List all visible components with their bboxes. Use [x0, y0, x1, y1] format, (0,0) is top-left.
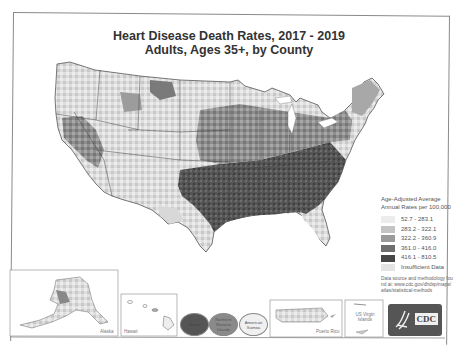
us-county-choropleth-map [0, 0, 458, 351]
legend-swatch [381, 235, 395, 242]
legend-item: 322.2 - 360.9 [381, 234, 453, 244]
legend-item: 52.7 - 283.1 [381, 215, 453, 225]
legend-item: 361.0 - 416.0 [381, 244, 453, 254]
alaska-inset [10, 270, 118, 336]
data-source-note: Data source and methodology found at: ww… [381, 276, 453, 294]
contiguous-us [55, 62, 384, 252]
legend-title: Age-Adjusted Average Annual Rates per 10… [381, 196, 453, 211]
legend-label: 283.2 - 322.1 [401, 226, 436, 234]
legend-swatch [381, 226, 395, 233]
legend-label: 416.1 - 810.5 [401, 254, 436, 262]
legend-item: Insufficient Data [381, 263, 453, 273]
legend-swatch [381, 216, 395, 223]
legend-label: 322.2 - 360.9 [401, 235, 436, 243]
legend-item: 283.2 - 322.1 [381, 225, 453, 235]
puerto-rico-label: Puerto Rico [316, 329, 340, 334]
legend-item: 416.1 - 810.5 [381, 253, 453, 263]
legend-label: 361.0 - 416.0 [401, 245, 436, 253]
legend-label: 52.7 - 283.1 [401, 216, 433, 224]
hhs-eagle-icon [393, 307, 413, 333]
alaska-label: Alaska [100, 329, 114, 334]
legend-label: Insufficient Data [401, 264, 444, 272]
guam-oval: Guam [180, 313, 209, 336]
cdc-logo-text: CDC [415, 313, 439, 325]
legend-swatch [381, 264, 395, 271]
legend-swatch [381, 255, 395, 262]
northern-mariana-oval: Northern Mariana Islands [209, 313, 238, 336]
legend: Age-Adjusted Average Annual Rates per 10… [381, 196, 453, 273]
cdc-logo: CDC [388, 304, 442, 336]
american-samoa-oval: American Samoa [239, 313, 268, 336]
legend-swatch [381, 245, 395, 252]
hawaii-label: Hawaii [124, 329, 138, 334]
virgin-islands-label: US Virgin Islands [350, 312, 380, 322]
